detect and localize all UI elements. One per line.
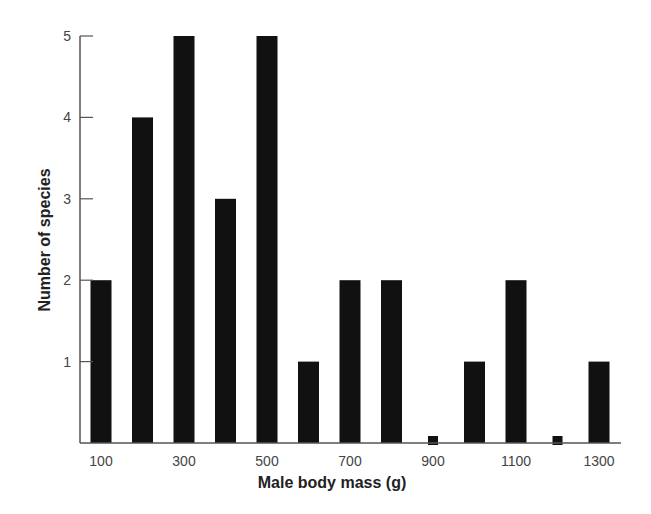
x-tick-label-1300: 1300 — [583, 453, 614, 469]
y-axis-title: Number of species — [36, 168, 53, 311]
y-axis: 12345 — [63, 28, 93, 443]
y-tick-label-4: 4 — [63, 109, 71, 125]
y-tick-label-3: 3 — [63, 191, 71, 207]
bar-300 — [174, 36, 195, 443]
x-axis-title: Male body mass (g) — [258, 474, 406, 491]
bar-800 — [381, 280, 402, 443]
x-tick-label-100: 100 — [89, 453, 113, 469]
x-tick-label-300: 300 — [172, 453, 196, 469]
bar-1000 — [464, 362, 485, 443]
y-tick-label-5: 5 — [63, 28, 71, 44]
bar-500 — [257, 36, 278, 443]
bars-group — [91, 36, 610, 445]
x-tick-label-1100: 1100 — [501, 453, 531, 469]
bar-400 — [215, 199, 236, 443]
y-tick-label-1: 1 — [63, 354, 71, 370]
y-tick-label-2: 2 — [63, 272, 71, 288]
bar-200 — [132, 117, 153, 443]
bar-1100 — [506, 280, 527, 443]
bar-700 — [340, 280, 361, 443]
x-tick-label-900: 900 — [421, 453, 445, 469]
x-axis: 10030050070090011001300 — [80, 443, 621, 469]
x-tick-label-700: 700 — [338, 453, 362, 469]
x-tick-label-500: 500 — [255, 453, 279, 469]
bar-chart: 12345 10030050070090011001300 Male body … — [0, 0, 651, 514]
bar-1300 — [589, 362, 610, 443]
bar-600 — [298, 362, 319, 443]
bar-100 — [91, 280, 112, 443]
